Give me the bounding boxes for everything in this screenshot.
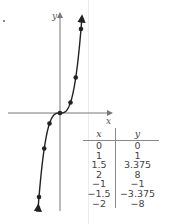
data-point [42, 146, 47, 151]
x-axis-label: x [106, 116, 111, 126]
y-axis-label: y [51, 11, 58, 21]
header-x: x [83, 128, 116, 140]
data-point [47, 121, 52, 126]
table-row: 1.5 3.375 [83, 160, 159, 170]
data-point [79, 27, 84, 32]
cell-x: −2 [83, 199, 116, 209]
table-header: x y [83, 128, 159, 141]
cell-y: −8 [116, 199, 159, 209]
table-row: 0 0 [83, 141, 159, 151]
data-point [73, 75, 78, 80]
data-point [37, 195, 42, 200]
header-y: y [116, 128, 159, 140]
table-row: −2 −8 [83, 199, 159, 209]
data-point [58, 111, 63, 116]
data-point [68, 100, 73, 105]
value-table: x y 0 0 1 1 1.5 3.375 2 8 −1 −1 −1.5 −3.… [83, 128, 159, 208]
